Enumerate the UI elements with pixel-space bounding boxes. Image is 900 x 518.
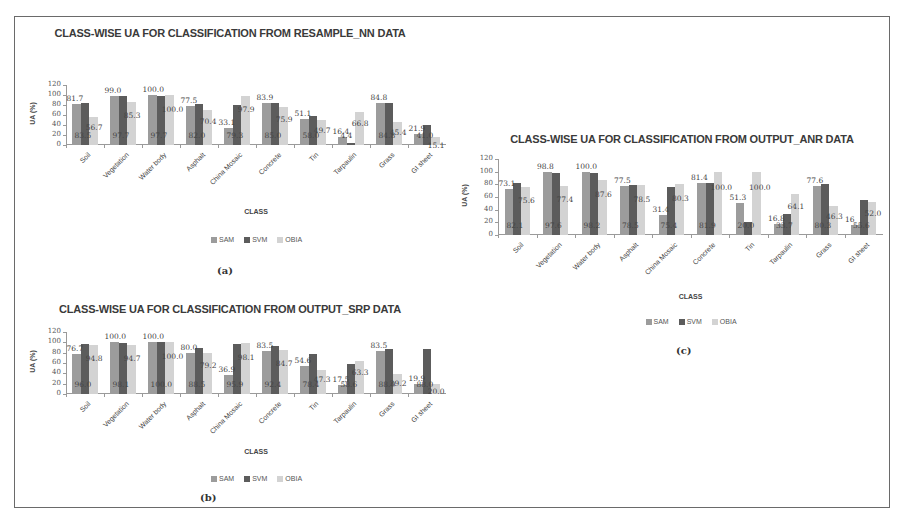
value-label-sam: 81.4 (691, 173, 708, 182)
x-tick-mark (104, 394, 105, 397)
chart-title: CLASS-WISE UA FOR CLASSIFICATION FROM RE… (20, 27, 440, 39)
x-tick-mark (537, 235, 538, 238)
x-tick-mark (332, 145, 333, 148)
y-tick-mark (495, 172, 498, 173)
x-tick-mark (370, 145, 371, 148)
value-label-obia: 84.7 (276, 359, 293, 368)
legend-item-sam: SAM (211, 236, 234, 243)
value-label-obia: 66.8 (352, 119, 369, 128)
value-label-obia: 52.0 (865, 209, 882, 218)
y-tick-mark (63, 85, 66, 86)
value-label-obia: 15.1 (428, 141, 445, 150)
value-label-svm: 92.4 (264, 380, 281, 389)
y-tick-label: 60 (41, 358, 61, 366)
x-tick-mark (575, 235, 576, 238)
value-label-sam: 83.9 (256, 93, 273, 102)
y-tick-mark (63, 363, 66, 364)
value-label-svm: 85.0 (264, 131, 281, 140)
legend-item-sam: SAM (211, 475, 234, 482)
value-label-obia: 56.7 (86, 123, 103, 132)
x-tick-mark (294, 394, 295, 397)
value-label-obia: 75.6 (518, 196, 535, 205)
value-label-sam: 51.1 (294, 109, 311, 118)
y-tick-label: 80 (41, 100, 61, 108)
legend-swatch-svm (244, 476, 250, 482)
value-label-sam: 77.6 (807, 176, 824, 185)
x-axis-title: CLASS (66, 448, 446, 455)
value-label-obia: 45.4 (390, 128, 407, 137)
y-tick-label: 20 (41, 130, 61, 138)
value-label-obia: 47.3 (314, 375, 331, 384)
plot-area: 02040608010012073.182.175.6Soil98.897.67… (498, 159, 883, 235)
legend-label: OBIA (720, 318, 737, 325)
legend-swatch-obia (277, 476, 283, 482)
value-label-svm: 82.1 (507, 221, 524, 230)
legend-label: SVM (252, 475, 267, 482)
y-tick-label: 0 (473, 230, 493, 238)
legend-item-svm: SVM (679, 318, 702, 325)
value-label-obia: 64.1 (788, 202, 805, 211)
bar-obia (355, 361, 363, 394)
value-label-obia: 100.0 (162, 105, 183, 114)
x-tick-mark (408, 394, 409, 397)
y-tick-label: 20 (41, 379, 61, 387)
value-label-sam: 51.3 (730, 193, 747, 202)
bar-sam (736, 203, 744, 235)
x-tick-mark (218, 145, 219, 148)
value-label-sam: 83.5 (370, 341, 387, 350)
legend-swatch-obia (712, 319, 718, 325)
y-axis-label: UA (%) (29, 350, 36, 373)
value-label-svm: 79.3 (226, 131, 243, 140)
y-tick-label: 100 (473, 167, 493, 175)
y-tick-label: 20 (473, 217, 493, 225)
legend-label: SVM (687, 318, 702, 325)
y-tick-label: 120 (473, 154, 493, 162)
y-tick-label: 120 (41, 80, 61, 88)
value-label-svm: 82.0 (188, 131, 205, 140)
value-label-sam: 83.5 (256, 341, 273, 350)
value-label-svm: 75.4 (661, 221, 678, 230)
y-tick-label: 60 (473, 192, 493, 200)
value-label-obia: 70.4 (200, 117, 217, 126)
value-label-obia: 77.4 (557, 195, 574, 204)
value-label-obia: 100.0 (162, 352, 183, 361)
y-tick-label: 40 (41, 368, 61, 376)
value-label-sam: 33.1 (218, 118, 235, 127)
value-label-obia: 39.2 (390, 379, 407, 388)
value-label-obia: 100.0 (711, 183, 732, 192)
value-label-obia: 20.0 (428, 387, 445, 396)
value-label-svm: 78.5 (622, 221, 639, 230)
value-label-obia: 97.9 (238, 105, 255, 114)
legend-swatch-svm (244, 237, 250, 243)
plot-area: 02040608010012076.796.094.8Soil100.098.1… (66, 332, 446, 394)
x-tick-mark (729, 235, 730, 238)
y-tick-label: 60 (41, 110, 61, 118)
y-tick-mark (63, 342, 66, 343)
y-tick-mark (63, 115, 66, 116)
x-tick-mark (180, 145, 181, 148)
value-label-sam: 100.0 (142, 85, 163, 94)
value-label-obia: 79.2 (200, 361, 217, 370)
legend-label: SVM (252, 236, 267, 243)
value-label-svm: 55.6 (853, 221, 870, 230)
value-label-obia: 78.5 (634, 195, 651, 204)
value-label-sam: 98.8 (537, 162, 554, 171)
value-label-sam: 100.0 (576, 162, 597, 171)
value-label-svm: 81.9 (699, 221, 716, 230)
chart-title: CLASS-WISE UA FOR CLASSIFICATION FROM OU… (472, 133, 892, 145)
x-tick-mark (370, 394, 371, 397)
x-tick-mark (691, 235, 692, 238)
y-tick-mark (63, 332, 66, 333)
y-axis (66, 332, 67, 394)
legend-swatch-sam (211, 237, 217, 243)
x-tick-mark (614, 235, 615, 238)
x-tick-mark (142, 394, 143, 397)
x-tick-mark (845, 235, 846, 238)
legend-item-svm: SVM (244, 236, 267, 243)
value-label-svm: 98.1 (112, 380, 129, 389)
y-tick-label: 40 (473, 205, 493, 213)
value-label-sam: 54.6 (294, 356, 311, 365)
y-tick-label: 0 (41, 140, 61, 148)
x-tick-mark (498, 235, 499, 238)
y-tick-label: 100 (41, 90, 61, 98)
